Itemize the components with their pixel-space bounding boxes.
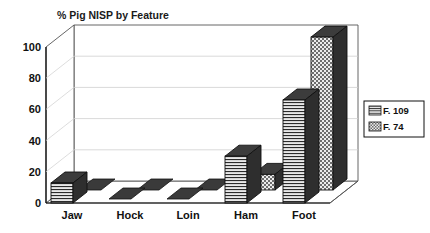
legend-swatch-f74 — [369, 122, 381, 131]
y-tick-20: 20 — [29, 166, 41, 178]
chart-figure: % Pig NISP by Feature 100 — [0, 0, 430, 233]
legend-label-f109: F. 109 — [383, 105, 409, 116]
x-tick-ham: Ham — [234, 209, 258, 221]
x-tick-loin: Loin — [176, 209, 199, 221]
bar-ham-f109 — [225, 145, 261, 203]
bar-foot-f109 — [283, 89, 319, 203]
y-tick-100: 100 — [23, 41, 41, 53]
bar-chart-svg: % Pig NISP by Feature 100 — [0, 0, 430, 233]
y-tick-40: 40 — [29, 135, 41, 147]
y-tick-0: 0 — [35, 197, 41, 209]
x-tick-jaw: Jaw — [62, 209, 83, 221]
x-tick-hock: Hock — [117, 209, 145, 221]
legend-entry-f74[interactable]: F. 74 — [369, 121, 404, 132]
x-tick-foot: Foot — [292, 209, 316, 221]
y-tick-80: 80 — [29, 72, 41, 84]
chart-legend: F. 109 F. 74 — [364, 101, 424, 137]
legend-label-f74: F. 74 — [383, 121, 404, 132]
chart-title: % Pig NISP by Feature — [57, 9, 169, 21]
y-tick-60: 60 — [29, 103, 41, 115]
legend-entry-f109[interactable]: F. 109 — [369, 105, 409, 116]
legend-swatch-f109 — [369, 106, 381, 115]
